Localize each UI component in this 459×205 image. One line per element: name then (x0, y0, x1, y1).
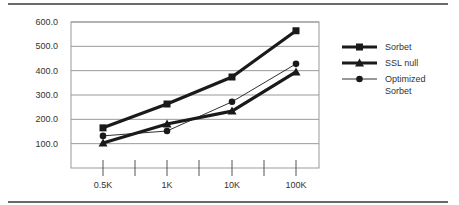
legend-label: Optimized (385, 74, 426, 84)
x-tick-label: 1K (161, 180, 172, 190)
y-tick-label: 600.0 (35, 17, 58, 27)
square-marker-icon (164, 101, 171, 108)
square-marker-icon (100, 124, 107, 131)
x-tick-label: 100K (285, 180, 306, 190)
series-line (103, 72, 296, 143)
legend-label: SSL null (385, 58, 418, 68)
x-tick-label: 0.5K (94, 180, 113, 190)
legend-label: Sorbet (385, 86, 412, 96)
y-tick-label: 500.0 (35, 41, 58, 51)
series-line (103, 64, 296, 136)
square-marker-icon (293, 27, 300, 34)
legend-item: OptimizedSorbet (342, 74, 426, 96)
y-tick-label: 400.0 (35, 66, 58, 76)
legend: SorbetSSL nullOptimizedSorbet (342, 42, 426, 96)
line-chart: 100.0200.0300.0400.0500.0600.00.5K1K10K1… (0, 0, 459, 205)
y-tick-label: 300.0 (35, 90, 58, 100)
legend-item: SSL null (342, 58, 418, 68)
circle-marker-icon (356, 76, 363, 83)
circle-marker-icon (164, 128, 171, 135)
legend-item: Sorbet (342, 42, 412, 52)
y-tick-label: 200.0 (35, 114, 58, 124)
series-line (103, 31, 296, 128)
circle-marker-icon (229, 99, 236, 106)
square-marker-icon (356, 44, 363, 51)
legend-label: Sorbet (385, 42, 412, 52)
x-tick-label: 10K (224, 180, 240, 190)
triangle-marker-icon (292, 67, 301, 75)
y-tick-label: 100.0 (35, 139, 58, 149)
circle-marker-icon (293, 61, 300, 68)
circle-marker-icon (100, 133, 107, 140)
series-optimized-sorbet (100, 61, 300, 140)
square-marker-icon (229, 73, 236, 80)
